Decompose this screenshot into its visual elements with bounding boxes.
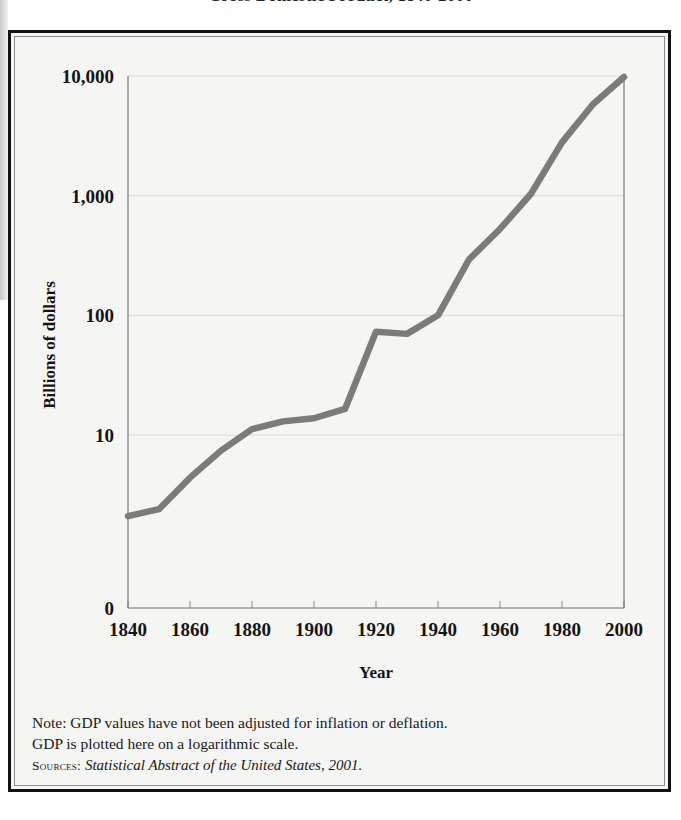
sources-label: Sources: [32,758,81,773]
page-edge-shadow [0,0,8,300]
figure-frame [8,30,671,792]
note-line-1: Note: GDP values have not been adjusted … [32,712,632,733]
note-line-2: GDP is plotted here on a logarithmic sca… [32,733,632,754]
sources-text: Statistical Abstract of the United State… [85,757,362,773]
figure-title: Gross Domestic Product, 1840-2000 [0,0,681,4]
sources-line: Sources: Statistical Abstract of the Uni… [32,755,632,776]
figure-frame-inner-rule [14,36,665,786]
figure-footer: Note: GDP values have not been adjusted … [32,712,632,776]
